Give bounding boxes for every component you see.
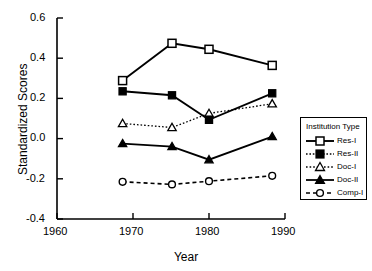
x-axis-title: Year xyxy=(0,250,372,264)
y-tick-label-1: 0.4 xyxy=(30,51,45,63)
legend-item-comp-i[interactable]: Comp-I xyxy=(305,186,365,199)
y-tick-label-0: 0.6 xyxy=(30,11,45,23)
legend-item-doc-i[interactable]: Doc-I xyxy=(305,160,365,173)
y-tick-label-3: 0.0 xyxy=(30,131,45,143)
legend: Institution Type Res-I Res-II Doc-I xyxy=(300,117,367,200)
legend-sample-comp-i xyxy=(305,187,335,199)
legend-sample-res-ii xyxy=(305,148,335,160)
y-axis-title: Standardized Scores xyxy=(16,64,30,175)
series-comp-i xyxy=(119,172,275,187)
legend-label-comp-i: Comp-I xyxy=(337,188,363,197)
x-tick-label-0: 1960 xyxy=(43,225,67,237)
legend-label-doc-ii: Doc-II xyxy=(337,175,358,184)
legend-sample-res-i xyxy=(305,135,335,147)
x-axis-ticks xyxy=(57,213,285,219)
legend-item-res-ii[interactable]: Res-II xyxy=(305,147,365,160)
y-tick-label-5: -0.4 xyxy=(26,212,45,224)
legend-item-doc-ii[interactable]: Doc-II xyxy=(305,173,365,186)
legend-label-doc-i: Doc-I xyxy=(337,162,356,171)
chart-figure: 0.6 0.4 0.2 0.0 -0.2 -0.4 1960 1970 1980… xyxy=(0,0,372,271)
axis-lines xyxy=(57,18,285,219)
legend-sample-doc-i xyxy=(305,161,335,173)
y-tick-label-2: 0.2 xyxy=(30,91,45,103)
x-tick-label-2: 1980 xyxy=(195,225,219,237)
legend-title: Institution Type xyxy=(306,122,360,131)
series-doc-ii xyxy=(118,132,276,162)
series-doc-i xyxy=(118,100,276,131)
x-tick-label-3: 1990 xyxy=(271,225,295,237)
series-res-i xyxy=(119,39,277,84)
x-tick-label-1: 1970 xyxy=(119,225,143,237)
legend-label-res-i: Res-I xyxy=(337,136,356,145)
legend-label-res-ii: Res-II xyxy=(337,149,358,158)
legend-sample-doc-ii xyxy=(305,174,335,186)
y-axis-ticks xyxy=(57,18,63,219)
legend-item-res-i[interactable]: Res-I xyxy=(305,134,365,147)
